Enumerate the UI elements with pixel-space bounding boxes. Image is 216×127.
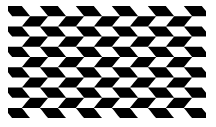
wavy-checkerboard-figure xyxy=(8,6,206,118)
illusion-canvas xyxy=(0,0,216,127)
